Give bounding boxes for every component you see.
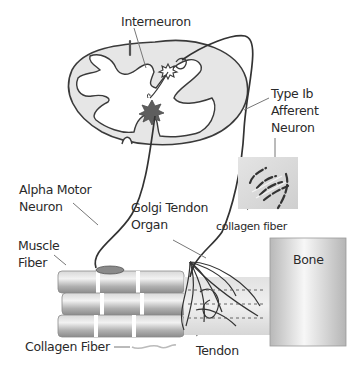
label-interneuron: Interneuron: [121, 14, 191, 30]
label-tendon: Tendon: [196, 343, 239, 359]
label-collagen-fiber: Collagen Fiber: [25, 339, 110, 355]
collagen-inset: [238, 157, 298, 209]
label-type-ib-line1: Type Ib: [271, 86, 313, 102]
label-type-ib-line2: Afferent: [271, 103, 319, 119]
label-muscle-line1: Muscle: [18, 238, 59, 254]
motor-end-plate: [96, 266, 124, 274]
label-golgi-line1: Golgi Tendon: [131, 200, 208, 216]
label-type-ib-line3: Neuron: [271, 120, 315, 136]
label-bone: Bone: [293, 252, 324, 268]
label-alpha-motor-line1: Alpha Motor: [19, 182, 91, 198]
interneuron-cell-icon: [159, 64, 177, 79]
muscle-fibers: [58, 266, 188, 337]
label-golgi-line2: Organ: [131, 217, 168, 233]
label-muscle-line2: Fiber: [18, 255, 47, 271]
label-alpha-motor-line2: Neuron: [19, 199, 63, 215]
label-collagen-inset: collagen fiber: [216, 220, 287, 234]
spinal-cord: [69, 40, 248, 144]
tendon: [184, 277, 270, 335]
collagen-fiber-strand: [132, 345, 176, 349]
